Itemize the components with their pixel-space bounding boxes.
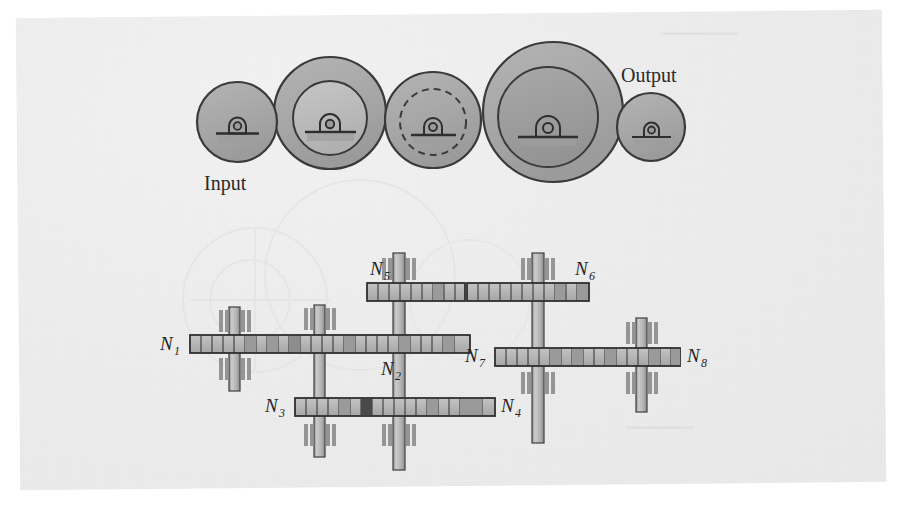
svg-text:8: 8 [701,356,707,370]
gear-bar-N7-N8[interactable] [495,348,680,366]
svg-text:N: N [264,395,279,416]
top-wheel-row [197,42,685,182]
wheel-4[interactable] [483,42,623,182]
svg-text:4: 4 [515,406,521,420]
svg-text:7: 7 [479,356,486,370]
label-N5: N 5 [369,258,390,283]
svg-text:N: N [159,333,174,354]
label-N3: N 3 [264,395,285,420]
gear-train [190,253,680,470]
input-label: Input [204,172,247,195]
svg-text:6: 6 [589,269,595,283]
label-N4: N 4 [500,395,521,420]
svg-text:N: N [464,345,479,366]
wheel-2[interactable] [274,57,386,169]
label-N7: N 7 [464,345,486,370]
svg-text:N: N [369,258,384,279]
svg-text:N: N [574,258,589,279]
gear-bar-N5[interactable] [367,283,465,301]
svg-text:1: 1 [174,344,180,358]
gear-bar-N6[interactable] [467,283,589,301]
svg-text:2: 2 [395,369,401,383]
figure-canvas: ━━━━━━━━━ ━━━━━━━━ [0,0,899,506]
label-N8: N 8 [686,345,707,370]
svg-text:5: 5 [384,269,390,283]
output-label: Output [621,64,677,87]
wheel-3[interactable] [385,72,481,168]
wheel-1[interactable] [197,82,277,162]
svg-text:N: N [380,358,395,379]
label-N6: N 6 [574,258,595,283]
gear-bar-N1-N2[interactable] [190,335,470,353]
svg-text:N: N [500,395,515,416]
wheel-5[interactable] [617,93,685,161]
shaft-mid[interactable] [314,305,325,457]
svg-text:3: 3 [278,406,285,420]
gear-bar-N3-N4[interactable] [295,398,495,416]
svg-text:N: N [686,345,701,366]
label-N1: N 1 [159,333,180,358]
diagram-layer: Input Output [0,0,899,506]
